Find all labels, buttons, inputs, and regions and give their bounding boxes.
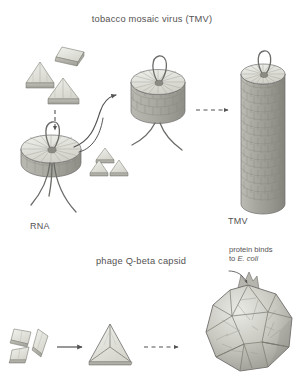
figure-illustration xyxy=(0,0,304,378)
capsid-subunit-b xyxy=(32,329,48,357)
annotation-line-2: to E. coli xyxy=(229,254,272,263)
annotation-species-name: E. coli xyxy=(237,254,258,263)
label-tmv: TMV xyxy=(228,216,248,226)
arrow-disc-to-stack xyxy=(74,95,116,152)
qbeta-protein-trimer xyxy=(89,324,132,365)
tmv-protein-disc xyxy=(21,122,81,212)
tmv-disc-stack xyxy=(131,56,185,150)
panel-title-qbeta: phage Q-beta capsid xyxy=(96,256,186,266)
capsid-subunit-a xyxy=(10,329,31,347)
protein-subunit-triangle-a xyxy=(26,62,54,88)
protein-subunit-block xyxy=(55,47,84,66)
annotation-protein-binds: protein binds to E. coli xyxy=(229,245,272,264)
virus-assembly-figure: tobacco mosaic virus (TMV) RNA TMV phage… xyxy=(0,0,304,378)
qbeta-capsid-subunits xyxy=(9,329,48,363)
label-rna: RNA xyxy=(30,221,50,231)
tmv-coat-protein-subunits xyxy=(26,47,84,104)
qbeta-icosahedral-capsid xyxy=(206,272,292,371)
annotation-line-1: protein binds xyxy=(229,245,272,254)
tmv-assembled-rod xyxy=(241,51,285,214)
capsid-subunit-c xyxy=(9,347,29,363)
tmv-free-subunits-mid xyxy=(90,148,128,176)
panel-title-tmv: tobacco mosaic virus (TMV) xyxy=(0,14,304,24)
